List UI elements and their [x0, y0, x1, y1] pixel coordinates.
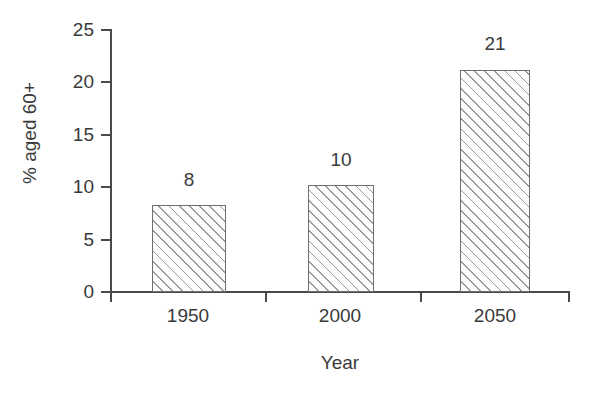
y-axis-title: % aged 60+ [19, 53, 41, 213]
y-tick-20 [101, 81, 110, 83]
bar-2000 [308, 185, 374, 292]
y-tick-label-15: 15 [34, 125, 94, 144]
y-axis-line [110, 29, 112, 293]
x-tick-label-2000: 2000 [280, 306, 400, 325]
bar-2050 [460, 70, 530, 292]
y-tick-label-0: 0 [34, 282, 94, 301]
y-tick-label-20: 20 [34, 72, 94, 91]
bar-value-2050: 21 [445, 34, 545, 53]
y-tick-25 [101, 29, 110, 31]
y-tick-5 [101, 239, 110, 241]
y-tick-10 [101, 186, 110, 188]
x-tick-end [568, 292, 570, 302]
bar-value-1950: 8 [139, 170, 239, 189]
y-tick-label-10: 10 [34, 177, 94, 196]
bar-1950 [152, 205, 226, 292]
x-tick-2 [420, 292, 422, 302]
y-tick-0 [101, 291, 110, 293]
bar-chart: 25 20 15 10 5 0 % aged 60+ 1950 2000 205… [0, 0, 591, 393]
x-tick-label-1950: 1950 [128, 306, 248, 325]
x-axis-title: Year [110, 352, 570, 374]
bar-value-2000: 10 [291, 150, 391, 169]
y-tick-label-5: 5 [34, 230, 94, 249]
x-tick-label-2050: 2050 [435, 306, 555, 325]
x-tick-start [110, 292, 112, 302]
y-tick-label-25: 25 [34, 20, 94, 39]
y-tick-15 [101, 134, 110, 136]
x-tick-1 [265, 292, 267, 302]
